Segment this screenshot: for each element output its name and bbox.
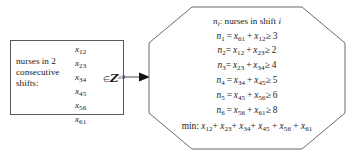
variable-subscript: 23 (79, 61, 86, 69)
objective-function: min: x12+ x23+ x34+ x45 + x56 + x61 (148, 120, 346, 136)
model-formulation-panel: ni: nurses in shift i n1 = x61 + x12≥ 3 … (148, 6, 346, 150)
constraint-lhs-subscript: 3 (222, 64, 226, 72)
constraint-term2-subscript: 45 (258, 79, 265, 87)
left-box-label-line-2: consecutive (16, 67, 78, 78)
variable-subscript: 45 (79, 89, 86, 97)
constraint-relation: ≥ (266, 104, 271, 115)
variable-subscript: 61 (79, 117, 86, 125)
variable-subscript: 34 (79, 75, 86, 83)
flow-arrow-icon (124, 72, 150, 82)
constraint-row: n6 = x56 + x61≥ 8 (148, 104, 346, 119)
left-box-label: nurses in 2 consecutive shifts: (16, 56, 78, 90)
objective-term-subscript: 34 (243, 124, 250, 132)
objective-term-subscript: 12 (205, 124, 212, 132)
constraint-lhs-subscript: 5 (221, 94, 225, 102)
constraint-relation: ≥ (265, 59, 270, 70)
objective-term-subscript: 61 (305, 124, 312, 132)
constraint-term2-subscript: 34 (258, 64, 265, 72)
variable-item: x45 (75, 86, 105, 100)
left-input-box: nurses in 2 consecutive shifts: x12 x23 … (10, 40, 124, 115)
left-box-label-line-1: nurses in 2 (16, 56, 78, 67)
shift-index-italic: i (278, 16, 281, 26)
constraint-term2-subscript: 23 (258, 49, 265, 57)
constraint-list: n1 = x61 + x12≥ 3 n2= x12 + x23≥ 2 n3= x… (148, 30, 346, 119)
constraint-relation: ≥ (266, 74, 271, 85)
constraint-row: n3= x23 + x34≥ 4 (148, 59, 346, 74)
left-box-label-line-3: shifts: (16, 78, 78, 89)
objective-term-subscript: 56 (284, 124, 291, 132)
constraint-lhs-subscript: 2 (222, 49, 226, 57)
variable-subscript: 56 (79, 103, 86, 111)
variable-item: x61 (75, 114, 105, 128)
constraint-row: n4 = x34 + x45≥ 5 (148, 74, 346, 89)
constraint-rhs: 8 (273, 105, 278, 115)
constraint-term1-subscript: 45 (238, 94, 245, 102)
variable-subscript: 12 (79, 48, 86, 56)
integer-domain-annotation: ∈Z≥0 (103, 71, 125, 85)
variable-list: x12 x23 x34 x45 x56 x61 (75, 44, 105, 128)
variable-item: x34 (75, 72, 105, 86)
variable-item: x23 (75, 58, 105, 72)
constraint-rhs: 6 (273, 90, 278, 100)
constraint-relation: ≥ (265, 44, 270, 55)
element-of-icon: ∈ (103, 75, 110, 84)
constraint-term1-subscript: 23 (237, 64, 244, 72)
constraint-term2-subscript: 56 (258, 94, 265, 102)
constraint-term2-subscript: 61 (258, 108, 265, 116)
constraint-row: n2= x12 + x23≥ 2 (148, 44, 346, 59)
variable-item: x56 (75, 100, 105, 114)
constraint-term2-subscript: 12 (258, 34, 265, 42)
constraint-row: n5 = x45 + x56≥ 6 (148, 89, 346, 104)
constraint-lhs-subscript: 1 (221, 34, 225, 42)
constraint-rhs: 3 (273, 31, 278, 41)
constraint-term1-subscript: 56 (238, 108, 245, 116)
constraint-lhs-subscript: 4 (221, 79, 225, 87)
constraint-lhs-subscript: 6 (221, 108, 225, 116)
integer-set-symbol: Z (110, 71, 118, 85)
constraint-row: n1 = x61 + x12≥ 3 (148, 30, 346, 45)
n-definition-header: ni: nurses in shift i (148, 15, 346, 30)
constraint-term1-subscript: 34 (238, 79, 245, 87)
constraint-relation: ≥ (266, 30, 271, 41)
n-definition-text: : nurses in shift (220, 16, 279, 26)
constraint-rhs: 4 (272, 60, 277, 70)
diagram-canvas: nurses in 2 consecutive shifts: x12 x23 … (0, 0, 347, 154)
objective-term-subscript: 23 (224, 124, 231, 132)
constraint-rhs: 2 (272, 45, 277, 55)
constraint-term1-subscript: 12 (237, 49, 244, 57)
objective-term-subscript: 45 (262, 124, 269, 132)
variable-item: x12 (75, 44, 105, 58)
objective-prefix: min: (182, 121, 199, 131)
constraint-relation: ≥ (266, 89, 271, 100)
constraint-rhs: 5 (273, 75, 278, 85)
constraint-term1-subscript: 61 (238, 34, 245, 42)
